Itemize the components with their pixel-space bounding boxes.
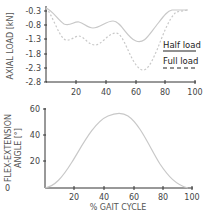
figure: -0.3 -0.8 -1.3 -1.8 -2.3 -2.8 20 40 60 8… [0,0,212,213]
x-tick: 20 [71,88,81,97]
x-tick: 80 [158,193,168,202]
y-axis-title-line1: FLEX-EXTENSION [4,114,13,182]
legend-full-load: Full load [163,56,198,66]
x-tick: 100 [184,193,199,202]
y-axis-title-line2: ANGLE [°] [14,128,23,168]
x-tick: 60 [131,88,141,97]
legend-half-load: Half load [163,40,201,50]
y-axis-title: AXIAL LOAD [kN] [6,12,15,79]
x-tick: 100 [187,88,202,97]
y-tick: -1.3 [25,35,41,44]
x-tick: 40 [101,88,111,97]
y-tick: -0.3 [25,7,41,16]
y-tick: -2.8 [25,78,41,87]
y-tick: 40 [30,131,40,140]
half-load-curve [46,8,188,42]
x-tick: 20 [69,193,79,202]
x-axis-title: % GAIT CYCLE [90,203,147,212]
y-tick: -1.8 [25,50,41,59]
y-tick: 60 [30,105,40,114]
x-tick: 60 [129,193,139,202]
y-tick: 0 [5,184,10,193]
flex-extension-chart: 60 40 20 0 20 40 60 80 100 % GAIT CYCLE … [4,105,200,212]
y-tick: 20 [30,157,40,166]
x-tick: 40 [99,193,109,202]
y-tick: -2.3 [25,64,41,73]
axial-load-chart: -0.3 -0.8 -1.3 -1.8 -2.3 -2.8 20 40 60 8… [6,6,203,97]
legend: Half load Full load [163,40,201,68]
y-tick: -0.8 [25,21,41,30]
flex-extension-curve [45,113,188,188]
x-tick: 80 [160,88,170,97]
